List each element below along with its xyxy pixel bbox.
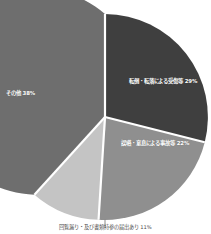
- pie-svg: [0, 0, 211, 234]
- pie-label-dark: 転倒・転落による受傷等 29%: [129, 79, 197, 85]
- pie-chart-figure: 転倒・転落による受傷等 29% 誤嚥・窒息による事故等 22% その他 38% …: [0, 0, 211, 234]
- pie-label-mid: 誤嚥・窒息による事故等 22%: [121, 141, 189, 147]
- pie-label-large: その他 38%: [6, 91, 35, 97]
- pie-canvas: [0, 0, 211, 234]
- pie-caption-light-slice: 回覧漏り・及び書類持参の届出あり 11%: [0, 223, 211, 230]
